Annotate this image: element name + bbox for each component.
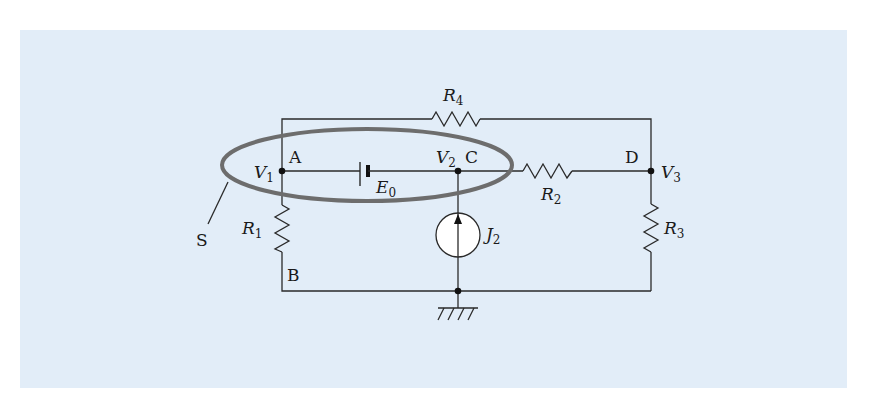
surface-s-leader xyxy=(208,182,228,224)
node-a-dot xyxy=(279,168,286,175)
right-branch-r3 xyxy=(644,171,658,291)
battery-e0 xyxy=(360,162,368,186)
ground-node-dot xyxy=(455,288,462,295)
resistor-r3 xyxy=(644,204,658,252)
resistor-r2 xyxy=(523,164,572,178)
label-j2: J2 xyxy=(483,224,500,247)
label-v1: V1 xyxy=(254,162,274,185)
label-b: B xyxy=(287,265,300,285)
label-r2: R2 xyxy=(540,184,561,207)
label-v2: V2 xyxy=(436,147,456,170)
label-r4: R4 xyxy=(442,85,464,108)
resistor-r4 xyxy=(432,112,480,126)
label-v3: V3 xyxy=(661,162,681,185)
ground-icon xyxy=(438,308,478,320)
label-r3: R3 xyxy=(663,218,684,241)
label-s: S xyxy=(196,230,208,250)
label-e0: E0 xyxy=(375,177,396,200)
node-d-dot xyxy=(648,168,655,175)
label-d: D xyxy=(625,147,639,167)
label-r1: R1 xyxy=(241,218,262,241)
resistor-r1 xyxy=(275,205,289,252)
circuit-diagram: S R4 V1 A E0 V2 C R2 D V3 R1 J2 R3 B xyxy=(0,0,870,397)
label-c: C xyxy=(465,147,478,167)
label-a: A xyxy=(288,147,302,167)
